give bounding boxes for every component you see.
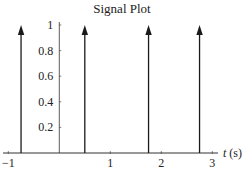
y-tick-label: 0.2 bbox=[38, 120, 53, 134]
arrowhead-icon bbox=[18, 25, 24, 35]
chart-title: Signal Plot bbox=[93, 1, 151, 16]
x-tick-label: 1 bbox=[107, 156, 113, 170]
arrowhead-icon bbox=[196, 25, 202, 35]
y-tick-label: 0.4 bbox=[38, 95, 53, 109]
x-tick-label: 2 bbox=[158, 156, 164, 170]
axes: −11230.20.40.60.81 bbox=[2, 18, 218, 170]
y-tick-label: 0.8 bbox=[38, 44, 53, 58]
x-axis-label-unit: (s) bbox=[226, 146, 242, 160]
x-axis-label: t (s) bbox=[223, 146, 242, 160]
y-tick-label: 0.6 bbox=[38, 69, 53, 83]
x-tick-label: −1 bbox=[2, 156, 15, 170]
y-tick-label: 1 bbox=[47, 18, 53, 32]
signal-plot: −11230.20.40.60.81 Signal Plot t (s) bbox=[0, 0, 252, 176]
x-tick-label: 3 bbox=[209, 156, 215, 170]
arrowhead-icon bbox=[145, 25, 151, 35]
arrowhead-icon bbox=[82, 25, 88, 35]
